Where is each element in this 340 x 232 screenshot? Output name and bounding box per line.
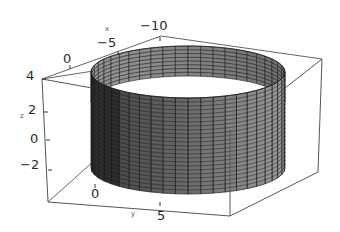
y-tick-5: 5 <box>157 209 165 222</box>
z-tick-4: 4 <box>26 69 34 82</box>
x-tick-neg10: −10 <box>140 19 167 32</box>
z-tick-neg2: −2 <box>20 158 39 171</box>
z-tick-2: 2 <box>28 103 36 116</box>
z-axis-label: z <box>20 113 24 120</box>
y-axis-label: y <box>131 211 135 218</box>
x-axis-label: x <box>105 26 109 33</box>
y-tick-0: 0 <box>91 187 99 200</box>
cylinder-3d-plot <box>0 0 340 232</box>
cylinder-surface <box>91 46 285 194</box>
z-tick-0: 0 <box>30 132 38 145</box>
x-tick-neg5: −5 <box>97 36 116 49</box>
x-tick-0: 0 <box>63 52 71 65</box>
